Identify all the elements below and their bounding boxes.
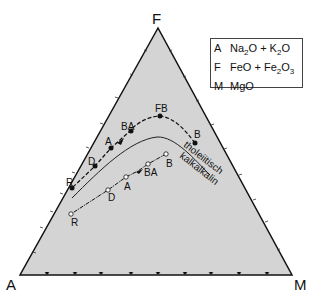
legend-row-F: FFeO + Fe2O3 [214,60,299,79]
legend: ANa2O + K2O FFeO + Fe2O3 MMgO [210,38,303,88]
svg-text:R: R [71,217,78,228]
vertex-label-A: A [6,276,16,293]
svg-text:FB: FB [155,103,168,114]
svg-text:A: A [105,136,112,147]
svg-text:A: A [124,181,131,192]
svg-text:B: B [194,129,201,140]
legend-row-A: ANa2O + K2O [214,41,299,60]
svg-text:BA: BA [144,167,158,178]
svg-text:B: B [166,158,173,169]
svg-text:R: R [66,177,73,188]
svg-text:BA: BA [121,121,135,132]
svg-text:D: D [108,192,115,203]
vertex-label-F: F [152,10,161,27]
svg-text:D: D [88,156,95,167]
legend-row-M: MMgO [214,79,299,94]
vertex-label-M: M [294,276,307,293]
